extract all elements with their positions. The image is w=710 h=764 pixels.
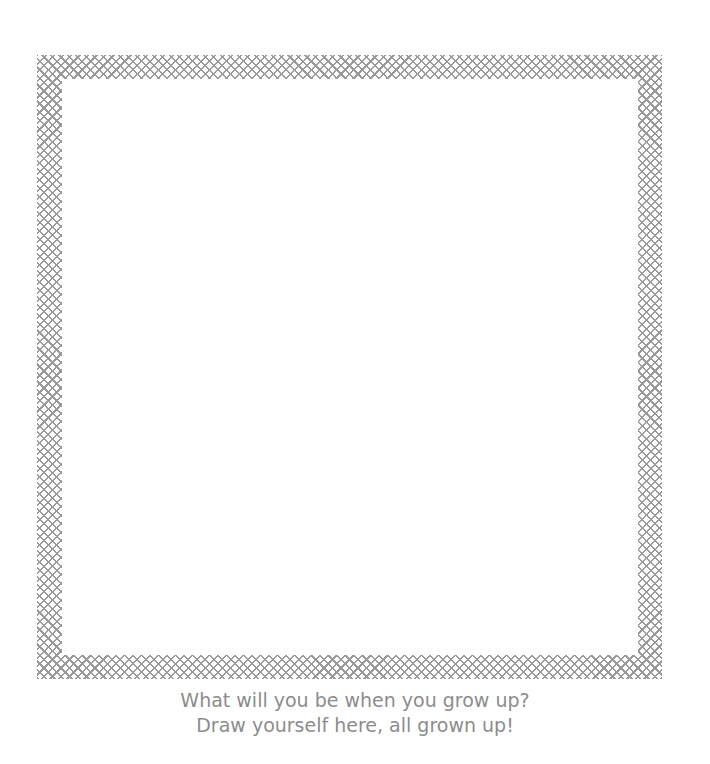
caption: What will you be when you grow up? Draw …: [0, 688, 710, 738]
crosshatch-frame-border: [37, 55, 662, 679]
caption-line-1: What will you be when you grow up?: [0, 688, 710, 713]
drawing-area[interactable]: [62, 79, 638, 655]
caption-line-2: Draw yourself here, all grown up!: [0, 713, 710, 738]
